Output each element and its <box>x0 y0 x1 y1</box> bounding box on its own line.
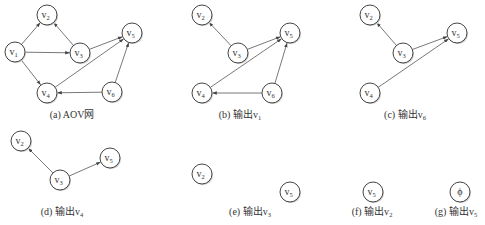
edge-v1-to-v2 <box>22 23 41 45</box>
node-label: ϕ <box>457 186 462 197</box>
node-v5: v5 <box>122 23 143 44</box>
node-v5: v5 <box>447 23 468 44</box>
edge-v4-to-v5 <box>55 39 123 87</box>
edge-v6-to-v4 <box>58 92 103 93</box>
node-v2: v2 <box>192 164 213 185</box>
edge-v3-to-v2 <box>209 23 231 46</box>
node-v4: v4 <box>360 83 381 104</box>
node-v5: v5 <box>363 182 384 203</box>
panel-a: v1v2v3v4v5v6(a) AOV网 <box>5 5 143 121</box>
node-v2: v2 <box>11 131 32 152</box>
panel-caption-c: (c) 输出v6 <box>384 108 427 121</box>
panel-b: v2v3v4v5v6(b) 输出v1 <box>192 5 301 121</box>
node-v3: v3 <box>70 43 91 64</box>
edge-v1-to-v3 <box>25 52 70 53</box>
node-v5: v5 <box>280 182 301 203</box>
node-v5: v5 <box>280 23 301 44</box>
panel-caption-f: (f) 输出v2 <box>352 205 393 218</box>
node-v6: v6 <box>102 82 123 103</box>
panel-caption-a: (a) AOV网 <box>50 109 95 121</box>
edge-v3-to-v2 <box>28 148 53 173</box>
node-v2: v2 <box>360 5 381 26</box>
panel-f: v5(f) 输出v2 <box>352 182 393 218</box>
node-v4: v4 <box>37 83 58 104</box>
node-v4: v4 <box>192 83 213 104</box>
panel-e: v2v5(e) 输出v3 <box>192 164 301 218</box>
panel-d: v2v3v5(d) 输出v4 <box>11 131 121 218</box>
panel-g: ϕ(g) 输出v5 <box>435 182 477 218</box>
node-v3: v3 <box>228 43 249 64</box>
node-v2: v2 <box>192 5 213 26</box>
panel-caption-b: (b) 输出v1 <box>219 108 261 121</box>
panel-caption-g: (g) 输出v5 <box>435 205 477 218</box>
panel-c: v2v3v4v5(c) 输出v6 <box>360 5 468 121</box>
node-empty: ϕ <box>450 182 471 203</box>
edge-v6-to-v5 <box>115 43 128 83</box>
node-v3: v3 <box>393 43 414 64</box>
edge-v3-to-v2 <box>54 23 74 46</box>
node-v3: v3 <box>50 170 71 191</box>
panel-caption-d: (d) 输出v4 <box>41 205 84 218</box>
edge-v3-to-v2 <box>377 23 397 46</box>
edge-v3-to-v5 <box>69 162 100 176</box>
panel-caption-e: (e) 输出v3 <box>229 205 271 218</box>
edge-v4-to-v5 <box>378 39 448 87</box>
node-v5: v5 <box>100 148 121 169</box>
topological-sort-diagram: v1v2v3v4v5v6(a) AOV网v2v3v4v5v6(b) 输出v1v2… <box>0 0 485 225</box>
node-v6: v6 <box>262 83 283 104</box>
node-v1: v1 <box>5 42 26 63</box>
edge-v1-to-v4 <box>21 60 40 85</box>
edge-v6-to-v5 <box>275 43 287 83</box>
